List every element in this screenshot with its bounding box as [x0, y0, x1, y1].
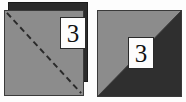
label-box-left: 3 [60, 17, 86, 49]
figure-root: 3 3 [0, 0, 186, 102]
label-text-right: 3 [135, 41, 148, 66]
panel-folded-sheet-with-fold-line: 3 [0, 0, 92, 102]
label-box-right: 3 [128, 37, 154, 69]
label-text-left: 3 [67, 21, 80, 46]
